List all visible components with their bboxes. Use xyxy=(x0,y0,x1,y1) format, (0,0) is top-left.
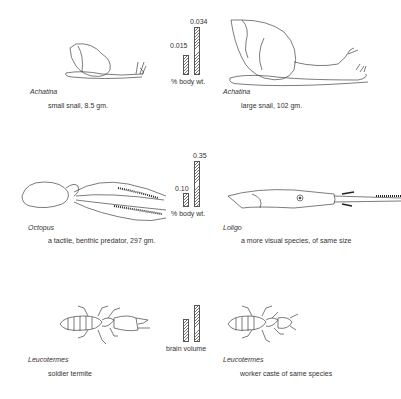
measure-label-body-wt-1: % body wt. xyxy=(171,78,205,85)
caption-large-snail: large snail, 102 gm. xyxy=(241,102,302,109)
soldier-termite-illustration xyxy=(58,306,153,346)
caption-worker-termite: worker caste of same species xyxy=(240,370,332,377)
large-snail-illustration xyxy=(228,18,388,88)
bar-soldier-termite xyxy=(183,319,189,342)
bar-value-small-snail: 0.015 xyxy=(170,42,188,49)
caption-octopus: a tactile, benthic predator, 297 gm. xyxy=(48,237,155,244)
caption-small-snail: small snail, 8.5 gm. xyxy=(48,102,108,109)
genus-label-loligo: Loligo xyxy=(223,224,242,231)
octopus-illustration xyxy=(18,170,158,230)
bar-value-loligo: 0.35 xyxy=(193,152,207,159)
bar-octopus xyxy=(183,193,189,207)
genus-label-achatina-small: Achatina xyxy=(30,88,57,95)
bar-loligo xyxy=(194,161,200,207)
genus-label-achatina-large: Achatina xyxy=(223,88,250,95)
squid-illustration xyxy=(226,186,386,216)
genus-label-leucotermes-soldier: Leucotermes xyxy=(28,356,68,363)
genus-label-leucotermes-worker: Leucotermes xyxy=(223,356,263,363)
bar-small-snail xyxy=(183,55,189,75)
bar-large-snail xyxy=(194,27,200,75)
bar-worker-termite xyxy=(194,305,200,342)
genus-label-octopus: Octopus xyxy=(28,224,54,231)
caption-soldier-termite: soldier termite xyxy=(48,370,92,377)
worker-termite-illustration xyxy=(226,306,301,346)
small-snail-illustration xyxy=(62,40,152,80)
measure-label-body-wt-2: % body wt. xyxy=(171,210,205,217)
caption-loligo: a more visual species, of same size xyxy=(241,237,352,244)
measure-label-brain-volume: brain volume xyxy=(166,345,206,352)
bar-value-large-snail: 0.034 xyxy=(190,18,208,25)
bar-value-octopus: 0.10 xyxy=(175,185,189,192)
